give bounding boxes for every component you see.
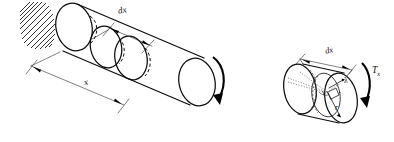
element-front-face (321, 71, 361, 126)
shaft-top-edge (77, 4, 204, 58)
label-radius: r (335, 104, 338, 112)
radius-arrow-head (337, 113, 341, 117)
label-lambda: λ (344, 77, 348, 85)
lambda-leader (329, 79, 345, 88)
label-dx-right: dx (324, 45, 334, 55)
label-torque: Tx (372, 66, 380, 77)
fixed-support-hatching (20, 2, 55, 49)
torsion-figure: dx x dx Tx λ γ r (0, 0, 394, 142)
element-rear-face (280, 62, 320, 117)
diagram-canvas (0, 0, 394, 142)
left-shaft-group (20, 0, 224, 113)
shear-element-patch (328, 88, 339, 99)
extension-line-right-2 (349, 70, 352, 74)
torque-arrow-right (360, 63, 370, 108)
label-dx-left: dx (117, 5, 127, 15)
label-torque-subscript: x (377, 70, 380, 77)
label-gamma: γ (322, 89, 325, 96)
dimension-x-left (26, 60, 129, 113)
extension-line-left-b (31, 52, 60, 66)
